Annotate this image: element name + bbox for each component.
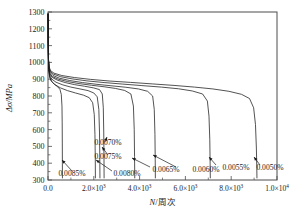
x-tick-label: 6.0×103 — [174, 183, 198, 193]
x-tick-label: 1.0×104 — [265, 183, 289, 193]
y-tick-label: 400 — [33, 159, 45, 168]
y-tick-label: 1300 — [29, 8, 45, 17]
series-label-00085: 0.0085% — [58, 169, 86, 178]
y-tick-label: 600 — [33, 126, 45, 135]
x-tick-label: 0.0 — [43, 184, 53, 193]
series-label-00065: 0.0065% — [152, 165, 180, 174]
x-tick-label: 2.0×103 — [82, 183, 106, 193]
x-axis-title: N/周次 — [148, 197, 175, 207]
series-label-00070: 0.0070% — [94, 138, 122, 147]
series-label-00055: 0.0055% — [222, 163, 250, 172]
x-tick-label: 4.0×103 — [128, 183, 152, 193]
series-label-00075: 0.0075% — [94, 152, 122, 161]
chart-figure: 3004005006007008009001000110012001300 0.… — [0, 0, 296, 220]
y-tick-label: 1000 — [29, 58, 45, 67]
y-tick-label: 700 — [33, 109, 45, 118]
x-tick-label: 8.0×103 — [219, 183, 243, 193]
y-tick-label: 500 — [33, 142, 45, 151]
series-label-00050: 0.0050% — [256, 163, 284, 172]
y-tick-label: 800 — [33, 92, 45, 101]
fatigue-stress-amplitude-chart: 3004005006007008009001000110012001300 0.… — [0, 0, 296, 220]
y-tick-label: 1200 — [29, 25, 45, 34]
series-label-00060: 0.0060% — [192, 165, 220, 174]
y-axis-title: Δσ/MPa — [4, 84, 14, 113]
series-label-00080: 0.0080% — [113, 169, 141, 178]
y-tick-label: 1100 — [29, 42, 45, 51]
y-tick-label: 900 — [33, 75, 45, 84]
